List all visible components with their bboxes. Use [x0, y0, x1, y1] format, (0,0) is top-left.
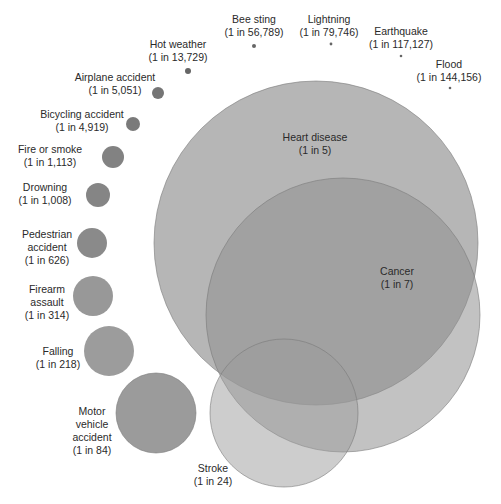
cause-text: Heart disease	[283, 131, 348, 144]
odds-text: (1 in 56,789)	[225, 26, 284, 39]
odds-text: (1 in 1,113)	[18, 156, 82, 169]
cause-text: Hot weather	[149, 38, 208, 51]
bubble-pedestrian-accident	[77, 228, 107, 258]
cause-text: Drowning	[18, 181, 71, 194]
label-cancer: Cancer(1 in 7)	[380, 265, 414, 291]
cause-text: Earthquake	[369, 25, 433, 38]
label-stroke: Stroke(1 in 24)	[194, 462, 233, 488]
cause-text: Stroke	[194, 462, 233, 475]
odds-text: (1 in 7)	[380, 278, 414, 291]
cause-text: assault	[25, 296, 69, 309]
label-falling: Falling(1 in 218)	[36, 345, 80, 371]
bubble-drowning	[86, 183, 110, 207]
label-motor-vehicle-accident: Motorvehicleaccident(1 in 84)	[72, 405, 111, 457]
cause-text: Fire or smoke	[18, 143, 82, 156]
label-bicycling-accident: Bicycling accident(1 in 4,919)	[40, 108, 123, 134]
odds-text: (1 in 314)	[25, 309, 69, 322]
label-flood: Flood(1 in 144,156)	[417, 58, 482, 84]
bubble-firearm-assault	[73, 276, 113, 316]
odds-text: (1 in 144,156)	[417, 71, 482, 84]
cause-text: Lightning	[300, 13, 359, 26]
cause-text: Falling	[36, 345, 80, 358]
cause-text: accident	[72, 431, 111, 444]
label-fire-or-smoke: Fire or smoke(1 in 1,113)	[18, 143, 82, 169]
bubble-falling	[84, 326, 134, 376]
label-heart-disease: Heart disease(1 in 5)	[283, 131, 348, 157]
label-bee-sting: Bee sting(1 in 56,789)	[225, 13, 284, 39]
label-firearm-assault: Firearmassault(1 in 314)	[25, 283, 69, 322]
label-lightning: Lightning(1 in 79,746)	[300, 13, 359, 39]
bubble-bee-sting	[252, 44, 256, 48]
odds-text: (1 in 117,127)	[369, 38, 433, 51]
cause-text: Flood	[417, 58, 482, 71]
label-hot-weather: Hot weather(1 in 13,729)	[149, 38, 208, 64]
cause-text: accident	[22, 241, 72, 254]
odds-text: (1 in 13,729)	[149, 51, 208, 64]
cause-text: vehicle	[72, 418, 111, 431]
odds-text: (1 in 84)	[72, 444, 111, 457]
odds-text: (1 in 626)	[22, 254, 72, 267]
label-pedestrian-accident: Pedestrianaccident(1 in 626)	[22, 228, 72, 267]
odds-text: (1 in 5,051)	[75, 84, 156, 97]
cause-text: Bicycling accident	[40, 108, 123, 121]
cause-text: Bee sting	[225, 13, 284, 26]
cause-text: Airplane accident	[75, 71, 156, 84]
label-airplane-accident: Airplane accident(1 in 5,051)	[75, 71, 156, 97]
odds-text: (1 in 4,919)	[40, 121, 123, 134]
odds-text: (1 in 79,746)	[300, 26, 359, 39]
odds-text: (1 in 24)	[194, 475, 233, 488]
bubble-hot-weather	[185, 68, 191, 74]
bubble-bicycling-accident	[126, 117, 140, 131]
bubble-earthquake	[400, 55, 403, 58]
bubble-flood	[449, 87, 452, 90]
cause-text: Cancer	[380, 265, 414, 278]
bubble-motor-vehicle-accident	[116, 373, 196, 453]
cause-text: Firearm	[25, 283, 69, 296]
cause-text: Pedestrian	[22, 228, 72, 241]
label-earthquake: Earthquake(1 in 117,127)	[369, 25, 433, 51]
odds-text: (1 in 1,008)	[18, 194, 71, 207]
odds-text: (1 in 5)	[283, 144, 348, 157]
odds-text: (1 in 218)	[36, 358, 80, 371]
bubble-lightning	[330, 43, 333, 46]
cause-text: Motor	[72, 405, 111, 418]
bubble-fire-or-smoke	[102, 146, 124, 168]
label-drowning: Drowning(1 in 1,008)	[18, 181, 71, 207]
